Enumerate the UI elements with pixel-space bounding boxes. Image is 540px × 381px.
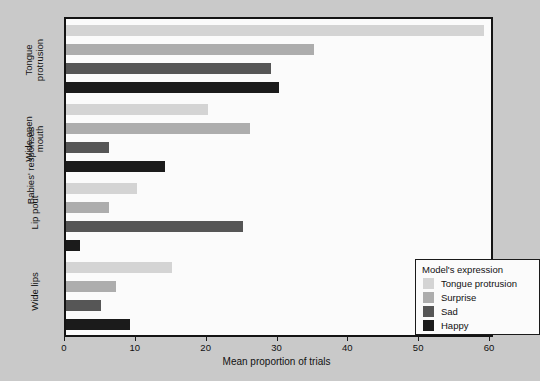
x-axis-tick-label: 60 <box>484 342 495 353</box>
bar <box>66 44 314 55</box>
x-axis-tick <box>135 335 136 341</box>
legend-item: Happy <box>421 319 534 332</box>
legend-item: Tongue protrusion <box>421 277 534 290</box>
x-axis-tick-label: 10 <box>130 342 141 353</box>
legend-label: Tongue protrusion <box>441 278 517 289</box>
bar <box>66 281 116 292</box>
x-axis-tick <box>347 335 348 341</box>
legend-label: Surprise <box>441 292 476 303</box>
bar <box>66 25 484 36</box>
y-axis-category-label: Wide openmouth <box>23 99 45 179</box>
bar <box>66 63 271 74</box>
legend-label: Sad <box>441 306 458 317</box>
legend-swatch <box>423 306 434 317</box>
x-axis-tick-label: 50 <box>413 342 424 353</box>
bar <box>66 104 208 115</box>
x-axis-tick <box>277 335 278 341</box>
bar <box>66 123 250 134</box>
bar <box>66 240 80 251</box>
bar-group <box>66 177 491 256</box>
bar <box>66 142 109 153</box>
bar <box>66 183 137 194</box>
bar <box>66 221 243 232</box>
legend: Model's expression Tongue protrusionSurp… <box>415 259 540 335</box>
legend-swatch <box>423 278 434 289</box>
bar <box>66 262 172 273</box>
x-axis-tick-label: 20 <box>200 342 211 353</box>
bar-group <box>66 19 491 98</box>
legend-label: Happy <box>441 320 468 331</box>
y-axis-category-label: Tongueprotrusion <box>23 20 45 100</box>
x-axis-tick <box>489 335 490 341</box>
bar <box>66 319 130 330</box>
x-axis-tick <box>64 335 65 341</box>
bar <box>66 161 165 172</box>
y-axis-category-label: Lip pout <box>29 172 40 252</box>
x-axis-tick <box>418 335 419 341</box>
bar <box>66 82 279 93</box>
x-axis-tick-label: 0 <box>61 342 66 353</box>
x-axis-title: Mean proportion of trials <box>64 356 489 367</box>
plot-frame: Model's expression Tongue protrusionSurp… <box>64 17 493 337</box>
legend-items: Tongue protrusionSurpriseSadHappy <box>421 277 534 332</box>
bar-group <box>66 98 491 177</box>
bar <box>66 202 109 213</box>
bar <box>66 300 101 311</box>
legend-item: Surprise <box>421 291 534 304</box>
legend-item: Sad <box>421 305 534 318</box>
legend-swatch <box>423 292 434 303</box>
x-axis-tick-label: 30 <box>271 342 282 353</box>
legend-title: Model's expression <box>422 264 534 275</box>
x-axis-tick <box>206 335 207 341</box>
y-axis-category-label: Wide lips <box>29 251 40 331</box>
x-axis-tick-label: 40 <box>342 342 353 353</box>
legend-swatch <box>423 320 434 331</box>
